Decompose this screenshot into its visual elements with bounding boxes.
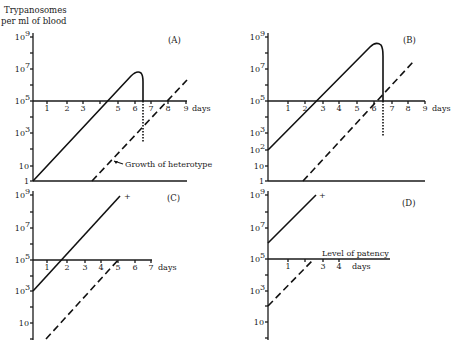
- y-tick-exponent: 3: [25, 283, 30, 292]
- y-axis-title-line1: Trypanosomes: [4, 5, 67, 15]
- panel-d: 10910710510310134days(D)+Level of patenc…: [250, 187, 416, 340]
- x-tick-label: 7: [148, 263, 153, 272]
- x-tick-label: 3: [320, 104, 325, 113]
- x-tick-label: 1: [285, 262, 290, 271]
- x-tick-label: 5: [115, 104, 120, 113]
- death-marker-plus: +: [319, 191, 326, 200]
- y-tick-label: 10: [19, 162, 29, 171]
- y-tick-exponent: 9: [25, 29, 30, 38]
- y-tick-label: 10: [19, 319, 29, 328]
- y-tick-exponent: 5: [25, 93, 30, 102]
- chart-canvas: Trypanosomes per ml of blood 10910710510…: [0, 0, 469, 356]
- x-tick-label: 6: [132, 263, 137, 272]
- infecting-population-line: [33, 196, 120, 291]
- x-axis-unit-label: days: [352, 262, 371, 271]
- y-tick-label: 1: [259, 177, 264, 186]
- infecting-population-line: [268, 195, 316, 243]
- y-tick-label: 10: [15, 224, 25, 233]
- infecting-population-line: [268, 43, 383, 150]
- death-marker-plus: +: [124, 192, 131, 201]
- heterotype-annotation: Growth of heterotype: [125, 160, 212, 169]
- x-tick-label: 9: [183, 104, 188, 113]
- y-tick-label: 10: [250, 33, 260, 42]
- y-tick-label: 10: [250, 191, 260, 200]
- y-tick-label: 10: [250, 65, 260, 74]
- y-tick-exponent: 5: [260, 251, 265, 260]
- y-tick-exponent: 9: [25, 187, 30, 196]
- y-tick-label: 10: [250, 129, 260, 138]
- panel-label: (C): [167, 193, 180, 203]
- x-tick-label: 2: [64, 104, 69, 113]
- y-tick-label: 10: [254, 162, 264, 171]
- x-tick-label: 7: [148, 104, 153, 113]
- x-tick-label: 1: [44, 263, 49, 272]
- y-tick-label: 10: [250, 287, 260, 296]
- y-tick-exponent: 3: [260, 283, 265, 292]
- y-tick-label: 10: [250, 146, 260, 155]
- x-tick-label: 5: [115, 263, 120, 272]
- y-tick-label: 1: [24, 177, 29, 186]
- panel-label: (D): [402, 198, 415, 208]
- x-tick-label: 3: [80, 104, 85, 113]
- y-tick-label: 10: [15, 256, 25, 265]
- x-axis-unit-label: days: [192, 104, 211, 113]
- x-tick-label: 3: [320, 262, 325, 271]
- y-tick-exponent: 7: [260, 61, 265, 70]
- x-tick-label: 5: [354, 104, 359, 113]
- x-tick-label: 8: [405, 104, 410, 113]
- panel-label: (A): [168, 35, 181, 45]
- trypanosome-growth-figure: Trypanosomes per ml of blood 10910710510…: [0, 0, 469, 356]
- y-tick-label: 10: [250, 224, 260, 233]
- x-tick-label: 4: [336, 104, 341, 113]
- y-tick-exponent: 2: [260, 142, 265, 151]
- x-axis-unit-label: days: [158, 263, 177, 272]
- x-tick-label: 1: [285, 104, 290, 113]
- y-tick-label: 10: [250, 255, 260, 264]
- y-tick-exponent: 5: [260, 93, 265, 102]
- panel-c: 109107105103101234567days(C)+: [15, 187, 180, 340]
- y-tick-label: 10: [254, 318, 264, 327]
- y-tick-label: 10: [15, 97, 25, 106]
- y-tick-label: 10: [15, 287, 25, 296]
- panel-b: 109107105103102101123456789days(B): [250, 29, 451, 186]
- y-tick-label: 10: [15, 33, 25, 42]
- y-tick-exponent: 9: [260, 29, 265, 38]
- x-tick-label: 3: [82, 263, 87, 272]
- panels-group: 10910710510310112356789days(A)Growth of …: [15, 29, 451, 340]
- y-tick-exponent: 9: [260, 187, 265, 196]
- y-tick-exponent: 3: [260, 125, 265, 134]
- y-tick-label: 10: [250, 97, 260, 106]
- x-tick-label: 6: [132, 104, 137, 113]
- y-tick-label: 10: [15, 191, 25, 200]
- x-tick-label: 9: [422, 104, 427, 113]
- patency-annotation: Level of patency: [322, 249, 389, 258]
- y-tick-exponent: 3: [25, 125, 30, 134]
- panel-a: 10910710510310112356789days(A)Growth of …: [15, 29, 213, 186]
- x-tick-label: 4: [336, 262, 341, 271]
- y-tick-exponent: 7: [25, 61, 30, 70]
- x-tick-label: 1: [44, 104, 49, 113]
- y-tick-exponent: 7: [260, 220, 265, 229]
- panel-label: (B): [403, 35, 416, 45]
- y-axis-title-line2: per ml of blood: [1, 16, 67, 26]
- x-tick-label: 7: [389, 104, 394, 113]
- x-tick-label: 2: [64, 263, 69, 272]
- y-tick-exponent: 7: [25, 220, 30, 229]
- x-tick-label: 4: [98, 263, 103, 272]
- y-tick-label: 10: [15, 65, 25, 74]
- heterotype-dashed-line: [303, 62, 413, 181]
- x-axis-unit-label: days: [432, 104, 451, 113]
- y-tick-label: 10: [15, 129, 25, 138]
- y-tick-exponent: 5: [25, 252, 30, 261]
- x-tick-label: 8: [165, 104, 170, 113]
